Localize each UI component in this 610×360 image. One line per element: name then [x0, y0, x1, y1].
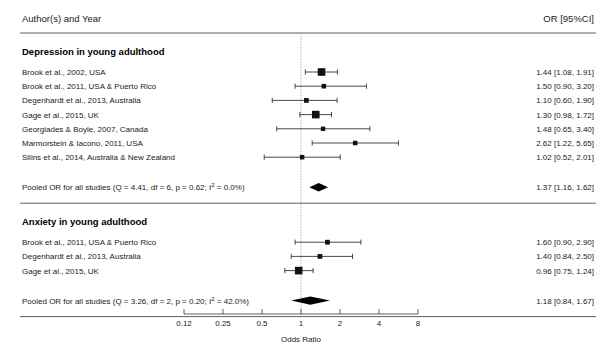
- axis-title: Odds Ratio: [281, 335, 322, 344]
- or-value: 1.30 [0.98, 1.72]: [536, 111, 594, 120]
- study-label: Georgiades & Boyle, 2007, Canada: [22, 125, 148, 134]
- pooled-label: Pooled OR for all studies (Q = 3.26, df …: [22, 296, 249, 306]
- axis-tick-label: 1: [299, 319, 304, 328]
- axis-tick-label: 0.12: [176, 319, 192, 328]
- effect-size-marker: [300, 155, 304, 159]
- axis-tick-label: 0.5: [256, 319, 268, 328]
- column-header-or: OR [95%CI]: [543, 13, 594, 24]
- or-value: 1.44 [1.08, 1.91]: [536, 68, 594, 77]
- study-label: Gage et al., 2015, UK: [22, 111, 100, 120]
- effect-size-marker: [318, 68, 326, 76]
- effect-size-marker: [322, 84, 327, 89]
- axis-tick-label: 2: [338, 319, 343, 328]
- study-label: Gage et al., 2015, UK: [22, 267, 100, 276]
- or-value: 1.60 [0.90, 2.90]: [536, 238, 594, 247]
- study-label: Degenhardt et al., 2013, Australia: [22, 96, 141, 105]
- or-value: 1.40 [0.84, 2.50]: [536, 252, 594, 261]
- or-value: 1.48 [0.65, 3.40]: [536, 125, 594, 134]
- study-label: Silins et al., 2014, Australia & New Zea…: [22, 153, 175, 162]
- study-label: Brook et al., 2011, USA & Puerto Rico: [22, 82, 157, 91]
- axis-tick-label: 4: [377, 319, 382, 328]
- or-value: 1.50 [0.90, 3.20]: [536, 82, 594, 91]
- study-label: Marmorstein & Iacono, 2011, USA: [22, 139, 143, 148]
- study-label: Brook et al., 2011, USA & Puerto Rico: [22, 238, 157, 247]
- or-value: 1.02 [0.52, 2.01]: [536, 153, 594, 162]
- effect-size-marker: [353, 141, 357, 145]
- effect-size-marker: [312, 111, 320, 119]
- or-value: 0.96 [0.75, 1.24]: [536, 267, 594, 276]
- pooled-or-value: 1.37 [1.16, 1.62]: [536, 183, 594, 192]
- forest-plot: Author(s) and YearOR [95%CI]0.120.250.51…: [0, 0, 610, 360]
- effect-size-marker: [304, 98, 309, 103]
- group-title: Depression in young adulthood: [22, 46, 165, 57]
- axis-tick-label: 0.25: [215, 319, 231, 328]
- or-value: 2.62 [1.22, 5.65]: [536, 139, 594, 148]
- or-value: 1.10 [0.60, 1.90]: [536, 96, 594, 105]
- study-label: Degenhardt et al., 2013, Australia: [22, 252, 141, 261]
- effect-size-marker: [295, 267, 303, 275]
- pooled-or-value: 1.18 [0.84, 1.67]: [536, 297, 594, 306]
- column-header-author: Author(s) and Year: [22, 13, 101, 24]
- effect-size-marker: [318, 254, 323, 259]
- effect-size-marker: [325, 240, 330, 245]
- group-title: Anxiety in young adulthood: [22, 216, 147, 227]
- study-label: Brook et al., 2002, USA: [22, 68, 106, 77]
- effect-size-marker: [321, 127, 325, 131]
- axis-tick-label: 8: [416, 319, 421, 328]
